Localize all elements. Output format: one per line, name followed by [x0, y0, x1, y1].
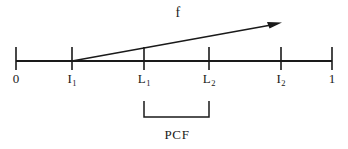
- tick-label-l1: L1: [138, 72, 151, 85]
- tick-label-i2-subscript: 2: [281, 78, 285, 88]
- function-arrow-head: [267, 22, 282, 29]
- tick-label-l1-text: L: [138, 71, 146, 86]
- tick-label-0: 0: [13, 72, 20, 85]
- tick-label-1-text: 1: [329, 71, 336, 86]
- tick-label-l2-subscript: 2: [211, 78, 215, 88]
- function-label-f: f: [176, 6, 181, 20]
- pcf-bracket-path: [144, 101, 209, 117]
- tick-label-1: 1: [329, 72, 336, 85]
- tick-label-i2: I2: [277, 72, 286, 85]
- figure-canvas: 0 I1 L1 L2 I2 1 f PCF: [0, 0, 348, 149]
- tick-label-l1-subscript: 1: [146, 78, 150, 88]
- pcf-bracket-label: PCF: [165, 128, 190, 141]
- tick-label-i1: I1: [68, 72, 77, 85]
- tick-label-l2: L2: [203, 72, 216, 85]
- tick-label-i1-text: I: [68, 71, 73, 86]
- tick-label-0-text: 0: [13, 71, 20, 86]
- tick-label-l2-text: L: [203, 71, 211, 86]
- tick-label-i2-text: I: [277, 71, 282, 86]
- function-arrow-shaft: [72, 25, 274, 62]
- tick-label-i1-subscript: 1: [72, 78, 76, 88]
